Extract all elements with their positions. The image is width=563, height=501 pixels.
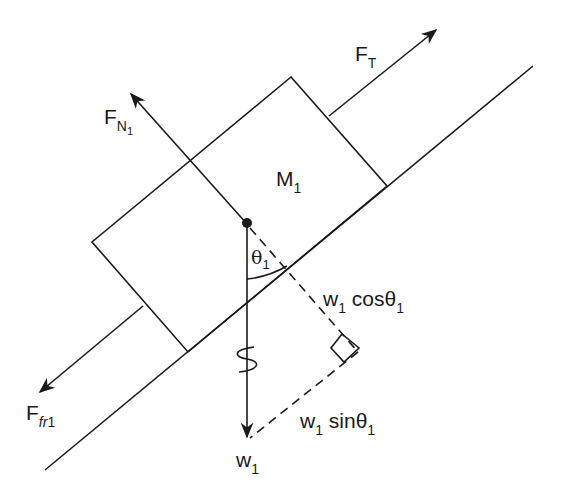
tension-force-arrow: [329, 30, 436, 116]
label-tension-force: FT: [355, 43, 376, 64]
label-friction-force: Ffr1: [26, 402, 55, 423]
free-body-diagram: FN1 FT M1 Ffr1 w1 θ1 w1 cosθ1 w1 sinθ1: [0, 0, 563, 501]
right-angle-marker: [331, 334, 359, 362]
label-function: cosθ: [346, 287, 396, 310]
label-normal-force: FN1: [104, 106, 133, 127]
label-w-cos-theta: w1 cosθ1: [323, 288, 404, 309]
center-of-mass-dot: [242, 218, 252, 228]
label-subscript: N1: [117, 118, 133, 134]
label-text: w: [236, 448, 251, 471]
label-text: F: [355, 42, 368, 65]
theta-symbol: θ: [251, 246, 262, 268]
subscript-1: 1: [127, 125, 133, 137]
label-text: F: [26, 401, 39, 424]
label-theta: θ1: [251, 248, 270, 267]
label-subscript: T: [368, 55, 377, 71]
label-subscript: 1: [338, 300, 346, 316]
label-subscript: 1: [251, 461, 259, 477]
label-subscript: 1: [47, 414, 55, 430]
normal-force-arrow: [131, 94, 247, 224]
label-function: sinθ: [323, 409, 367, 432]
label-weight: w1: [236, 449, 259, 470]
label-text: w: [323, 287, 338, 310]
label-text: M: [276, 167, 294, 190]
subscript-n: N: [117, 118, 127, 134]
label-subscript: 1: [367, 422, 375, 438]
label-text: w: [300, 409, 315, 432]
label-subscript: 1: [294, 180, 302, 196]
label-subscript: 1: [315, 422, 323, 438]
friction-force-arrow: [40, 306, 143, 392]
diagram-drawing: [0, 0, 563, 501]
label-subscript: 1: [262, 257, 269, 272]
label-text: F: [104, 105, 117, 128]
label-mass: M1: [276, 168, 301, 189]
label-subscript: 1: [396, 300, 404, 316]
label-w-sin-theta: w1 sinθ1: [300, 410, 375, 431]
